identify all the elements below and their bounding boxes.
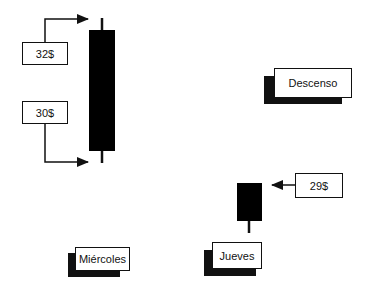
price-label-low: 30$ — [22, 101, 68, 124]
price-label-thursday: 29$ — [295, 173, 343, 198]
day-label-wednesday-box: Miércoles — [75, 247, 130, 271]
day-label-thursday-box: Jueves — [212, 242, 262, 269]
trend-label-text: Descenso — [289, 77, 338, 89]
day-label-thursday: Jueves — [204, 242, 266, 276]
trend-label: Descenso — [264, 68, 354, 106]
trend-label-box: Descenso — [274, 68, 352, 98]
candle-thursday-body — [237, 183, 262, 221]
candle-thursday — [237, 183, 262, 233]
arrow-low-icon — [45, 124, 88, 162]
day-label-thursday-text: Jueves — [220, 250, 255, 262]
day-label-wednesday-text: Miércoles — [79, 253, 126, 265]
price-label-high: 32$ — [22, 42, 68, 65]
price-label-thursday-text: 29$ — [310, 180, 328, 192]
arrow-high-icon — [45, 19, 88, 42]
day-label-wednesday: Miércoles — [68, 247, 130, 279]
candle-wednesday-body — [89, 30, 115, 151]
price-label-low-text: 30$ — [36, 107, 54, 119]
candle-wednesday — [89, 18, 115, 163]
price-label-high-text: 32$ — [36, 48, 54, 60]
